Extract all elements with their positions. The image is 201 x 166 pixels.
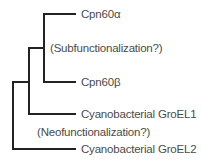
leaf-label-cpn60b: Cpn60β: [81, 75, 120, 89]
annotation-neofunctionalization: (Neofunctionalization?): [37, 125, 150, 139]
stem-cpn60-clade: [29, 47, 44, 49]
leaf-label-cpn60a: Cpn60α: [81, 7, 120, 21]
root-vertical: [12, 81, 14, 150]
leaf-label-groel1: Cyanobacterial GroEL1: [81, 107, 196, 121]
leaf-label-groel2: Cyanobacterial GroEL2: [81, 142, 196, 156]
branch-cpn60a: [44, 13, 76, 15]
branch-cpn60b: [44, 81, 76, 83]
branch-groel2: [13, 148, 76, 150]
stem-middle-clade: [13, 81, 29, 83]
annotation-subfunctionalization: (Subfunctionalization?): [50, 41, 162, 55]
branch-groel1: [29, 113, 76, 115]
